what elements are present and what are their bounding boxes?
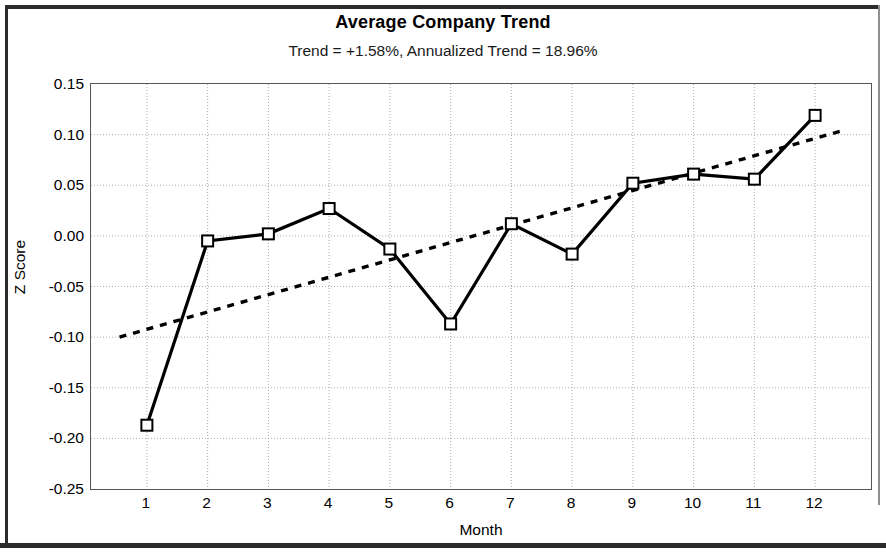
data-point-marker	[688, 169, 699, 180]
y-axis-tick-label: -0.10	[28, 328, 84, 346]
plot-area	[90, 83, 872, 490]
y-axis-tick-label: 0.00	[28, 227, 84, 245]
chart-subtitle: Trend = +1.58%, Annualized Trend = 18.96…	[0, 42, 886, 60]
y-axis-tick-label: 0.15	[28, 75, 84, 93]
x-axis-tick-label: 12	[794, 494, 834, 512]
x-axis-tick-label: 6	[430, 494, 470, 512]
x-axis-tick-label: 2	[187, 494, 227, 512]
y-axis-tick-labels: 0.150.100.050.00-0.05-0.10-0.15-0.20-0.2…	[20, 83, 84, 490]
data-point-marker	[263, 228, 274, 239]
y-axis-tick-label: -0.25	[28, 480, 84, 498]
y-axis-tick-label: -0.15	[28, 379, 84, 397]
page-frame-top-border	[6, 5, 880, 9]
y-axis-title: Z Score	[11, 217, 29, 317]
x-axis-tick-label: 11	[733, 494, 773, 512]
x-axis-tick-label: 1	[126, 494, 166, 512]
data-point-marker	[324, 203, 335, 214]
x-axis-tick-label: 7	[490, 494, 530, 512]
y-axis-tick-label: -0.20	[28, 429, 84, 447]
data-point-marker	[506, 218, 517, 229]
x-axis-tick-label: 5	[369, 494, 409, 512]
x-axis-tick-label: 4	[308, 494, 348, 512]
data-point-markers	[141, 110, 820, 431]
x-axis-tick-label: 9	[612, 494, 652, 512]
x-axis-tick-label: 10	[673, 494, 713, 512]
data-point-marker	[567, 249, 578, 260]
page-frame-right-border	[878, 5, 880, 505]
x-axis-tick-labels: 123456789101112	[90, 494, 872, 518]
data-point-marker	[202, 235, 213, 246]
chart-page: Average Company Trend Trend = +1.58%, An…	[0, 0, 886, 552]
x-axis-tick-label: 8	[551, 494, 591, 512]
data-point-marker	[627, 178, 638, 189]
chart-title: Average Company Trend	[0, 12, 886, 33]
page-frame-left-border	[5, 5, 8, 543]
y-axis-tick-label: 0.05	[28, 176, 84, 194]
y-axis-tick-label: -0.05	[28, 278, 84, 296]
trendline-series	[120, 131, 843, 338]
x-axis-title: Month	[90, 521, 872, 539]
chart-canvas	[91, 84, 871, 489]
data-point-marker	[749, 174, 760, 185]
data-point-marker	[384, 244, 395, 255]
data-point-marker	[445, 318, 456, 329]
data-point-marker	[810, 110, 821, 121]
data-point-marker	[141, 420, 152, 431]
y-axis-tick-label: 0.10	[28, 126, 84, 144]
page-frame-bottom-border	[0, 543, 886, 548]
data-series-line	[147, 115, 815, 425]
x-axis-tick-label: 3	[247, 494, 287, 512]
